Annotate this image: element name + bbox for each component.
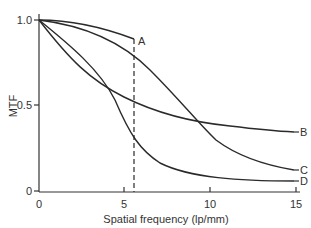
y-tick-label: 1.0: [17, 14, 32, 26]
x-tick-label: 15: [290, 198, 302, 210]
mtf-chart: 1.0 0.5 0 0 5 10 15 Spatial frequency (l…: [0, 0, 311, 228]
curve-label-d: D: [300, 175, 308, 187]
curve-b: [39, 20, 294, 132]
curve-label-a: A: [138, 35, 146, 47]
curve-d: [39, 20, 294, 181]
curve-c: [39, 20, 294, 170]
x-axis-title: Spatial frequency (lp/mm): [103, 213, 228, 225]
x-tick-label: 5: [121, 198, 127, 210]
y-tick-label: 0: [26, 185, 32, 197]
curve-label-b: B: [300, 126, 307, 138]
y-axis-title: MTF: [7, 94, 19, 117]
curve-a: [39, 20, 134, 39]
x-tick-label: 10: [204, 198, 216, 210]
x-tick-label: 0: [36, 198, 42, 210]
